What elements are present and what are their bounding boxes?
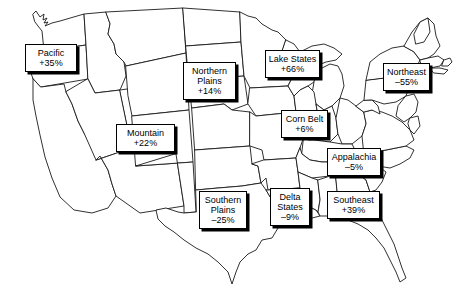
region-name: Southeast [333,195,374,205]
region-label-northeast[interactable]: Northeast –55% [383,63,430,91]
region-name: Pacific [38,48,65,58]
region-value: +66% [281,64,304,74]
region-label-appalachia[interactable]: Appalachia –5% [327,148,381,176]
region-name: Northeast [387,67,426,77]
region-name: Northern Plains [187,66,232,87]
region-name: Southern Plains [203,195,243,216]
region-label-pacific[interactable]: Pacific +35% [25,44,77,72]
region-name: Mountain [127,128,164,138]
region-name: Lake States [269,54,317,64]
region-value: +22% [134,138,157,148]
region-value: –55% [395,77,418,87]
state-outlines [30,8,452,284]
us-region-map-figure: Pacific +35% Mountain +22% Northern Plai… [0,0,469,302]
region-label-corn-belt[interactable]: Corn Belt +6% [281,110,328,138]
region-label-southern-plains[interactable]: Southern Plains –25% [199,191,247,229]
region-value: –5% [345,162,363,172]
region-value: +35% [39,58,62,68]
region-name: Corn Belt [286,114,324,124]
region-label-northern-plains[interactable]: Northern Plains +14% [183,62,236,100]
region-value: +14% [198,86,221,96]
region-label-southeast[interactable]: Southeast +39% [327,191,380,219]
region-label-delta-states[interactable]: Delta States –9% [270,188,310,226]
region-value: –25% [211,215,234,225]
region-name: Appalachia [332,152,377,162]
region-value: –9% [281,212,299,222]
region-label-lake-states[interactable]: Lake States +66% [265,50,320,78]
region-name: Delta States [274,192,306,213]
region-value: +39% [342,205,365,215]
region-label-mountain[interactable]: Mountain +22% [116,124,175,152]
region-value: +6% [295,124,313,134]
